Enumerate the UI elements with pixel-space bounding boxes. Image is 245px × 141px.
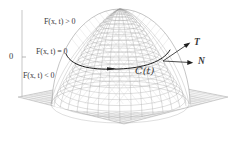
label-curve: C(t)	[135, 66, 154, 76]
label-region-negative: F(x, t) < 0	[23, 72, 54, 80]
label-region-zero: F(x, t) = 0	[36, 48, 67, 56]
normal-arrow-head	[187, 60, 193, 65]
axis-zero-label: 0	[9, 52, 13, 61]
label-region-positive: F(x, t) > 0	[44, 18, 75, 26]
level-set-diagram: 0 F(x, t) > 0 F(x, t) = 0 F(x, t) < 0 C(…	[0, 0, 245, 141]
label-normal-vector: N	[198, 57, 205, 67]
vertical-axis	[22, 10, 26, 97]
label-tangent-vector: T	[194, 38, 200, 48]
tangent-arrow-head	[184, 42, 191, 48]
